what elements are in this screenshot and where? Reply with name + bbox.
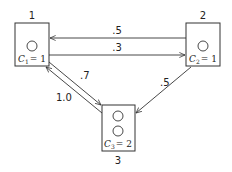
node-3-label: 3 xyxy=(115,155,121,166)
node-3: C3= 2 3 xyxy=(102,105,135,166)
edge-1-to-2-weight: .3 xyxy=(112,42,122,53)
edge-2-to-3-weight: .5 xyxy=(160,77,170,88)
edge-1-to-3-weight: .7 xyxy=(80,70,90,81)
edge-2-to-1-weight: .5 xyxy=(112,25,122,36)
edge-3-to-1-weight: 1.0 xyxy=(56,92,72,103)
node-1-label: 1 xyxy=(29,10,35,21)
network-diagram: 1 C1= 1 2 C2= 1 C3= 2 3 .5 .3 .7 1.0 .5 xyxy=(0,0,232,172)
node-1-capacity: C1= 1 xyxy=(18,54,46,65)
node-3-capacity: C3= 2 xyxy=(104,139,132,150)
node-1: 1 C1= 1 xyxy=(15,10,49,66)
edge-2-to-3 xyxy=(136,67,191,113)
node-2: 2 C2= 1 xyxy=(186,10,220,66)
edge-3-to-1 xyxy=(46,67,102,113)
node-2-label: 2 xyxy=(200,10,206,21)
node-2-capacity: C2= 1 xyxy=(189,54,217,65)
